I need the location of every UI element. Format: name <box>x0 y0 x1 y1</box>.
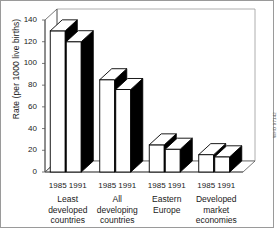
x-group-label-line: countries <box>100 215 135 225</box>
x-group-label-line: Developed <box>196 194 237 204</box>
x-group-label-line: developing <box>97 205 138 215</box>
x-group-label-line: market <box>203 205 229 215</box>
x-group-label-line: developed <box>48 205 87 215</box>
y-tick-label: 120 <box>13 37 37 46</box>
y-tick-label: 20 <box>13 145 37 154</box>
x-group-label-line: Europe <box>153 205 180 215</box>
x-group-label-line: Least <box>57 194 78 204</box>
y-tick-label: 0 <box>13 167 37 176</box>
bar-chart: Rate (per 1000 live births) 020406080100… <box>0 0 275 229</box>
y-tick-label: 40 <box>13 124 37 133</box>
x-tick-years: 1985 1991 <box>44 181 91 190</box>
x-group-label-line: countries <box>51 215 86 225</box>
x-tick-years: 1985 1991 <box>193 181 240 190</box>
y-tick-label: 100 <box>13 58 37 67</box>
y-tick-label: 60 <box>13 102 37 111</box>
x-group-label-line: All <box>113 194 122 204</box>
y-tick-label: 140 <box>13 15 37 24</box>
x-group-label-line: economies <box>196 215 237 225</box>
x-tick-years: 1985 1991 <box>143 181 190 190</box>
y-tick-label: 80 <box>13 80 37 89</box>
figure-credit: WHO 97142 <box>272 112 275 138</box>
x-group-label-line: Eastern <box>152 194 181 204</box>
x-axis-labels: 0204060801001201401985 1991Leastdevelope… <box>0 0 275 229</box>
x-group-label: Developedmarketeconomies <box>183 194 250 226</box>
x-tick-years: 1985 1991 <box>94 181 141 190</box>
